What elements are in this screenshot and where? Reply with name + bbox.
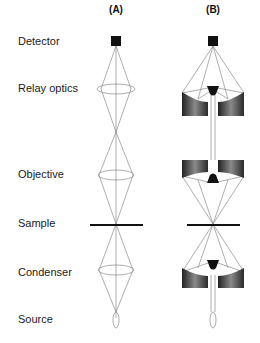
column-a-optics: [97, 36, 135, 328]
detector-b-icon: [208, 36, 218, 46]
condenser-mirror-icon: [182, 260, 244, 288]
detector-icon: [111, 36, 121, 46]
source-b-icon: [210, 312, 216, 328]
objective-mirror-icon: [182, 160, 244, 183]
optics-diagram: [0, 0, 260, 343]
relay-mirror-icon: [182, 86, 244, 116]
